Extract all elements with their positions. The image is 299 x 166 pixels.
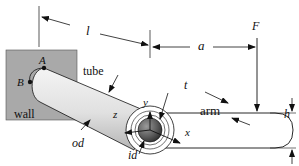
label-axis-y: y — [143, 97, 148, 108]
l-arrow-right — [100, 34, 148, 45]
label-wall: wall — [14, 108, 35, 120]
label-axis-z: z — [113, 109, 117, 120]
label-axis-x: x — [185, 127, 190, 138]
label-arm: arm — [200, 104, 220, 117]
l-arrow-left — [42, 17, 70, 25]
label-l: l — [86, 24, 90, 37]
label-tube: tube — [83, 65, 104, 77]
t-arrow-top — [205, 92, 228, 103]
label-id: id — [128, 149, 137, 161]
tube-wall-leader — [109, 75, 118, 92]
label-f: F — [252, 20, 259, 32]
label-point-b: B — [17, 77, 24, 88]
label-t: t — [184, 79, 187, 91]
label-h: h — [284, 108, 290, 120]
label-a: a — [198, 39, 205, 52]
label-point-a: A — [39, 55, 46, 66]
label-od: od — [72, 137, 84, 149]
